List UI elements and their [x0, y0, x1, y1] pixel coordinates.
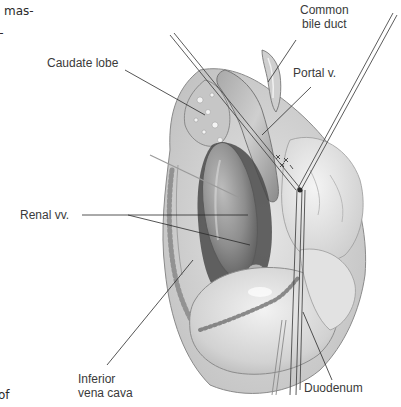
surgical-field [150, 13, 397, 395]
label-caudate-lobe: Caudate lobe [47, 56, 118, 70]
label-renal-veins: Renal vv. [20, 208, 69, 222]
label-duodenum: Duodenum [304, 381, 363, 395]
label-common-bile-duct: Common bile duct [300, 3, 349, 31]
label-portal-vein: Portal v. [293, 66, 336, 80]
label-inferior-vena-cava: Inferior vena cava [78, 372, 133, 400]
